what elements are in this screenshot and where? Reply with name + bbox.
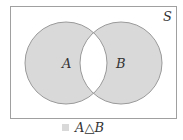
legend-swatch: [62, 124, 69, 131]
venn-diagram: S A B A△B: [0, 0, 183, 140]
universe-label: S: [163, 9, 172, 24]
legend-label: A△B: [74, 120, 104, 135]
symmetric-difference-region: [0, 0, 183, 140]
set-b-label: B: [115, 56, 126, 71]
set-a-label: A: [61, 56, 71, 71]
